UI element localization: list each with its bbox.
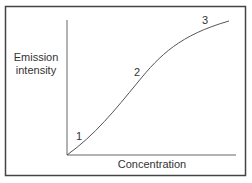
y-axis-label-line1: Emission <box>14 51 59 63</box>
region-label-3: 3 <box>202 14 208 26</box>
figure-frame <box>6 7 246 176</box>
emission-concentration-figure: Emission intensity Concentration 1 2 3 <box>0 0 252 183</box>
y-axis-label-line2: intensity <box>16 64 57 76</box>
region-label-2: 2 <box>134 66 140 78</box>
region-label-1: 1 <box>76 130 82 142</box>
x-axis-label: Concentration <box>118 158 187 170</box>
